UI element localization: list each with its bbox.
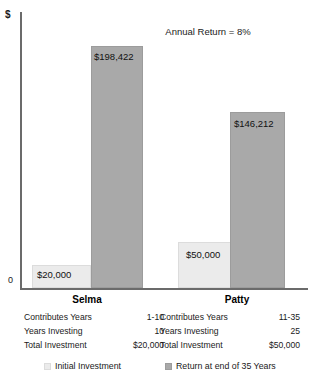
legend-item-initial-investment: Initial Investment [44, 359, 121, 373]
table-row: Contributes Years1-10 [24, 310, 164, 324]
x-axis-line [20, 288, 308, 290]
table-row: Years Investing25 [160, 324, 300, 338]
table-row-value: 25 [290, 324, 300, 338]
bar-value-label-selma-return: $198,422 [94, 52, 134, 62]
bar-selma-return [91, 46, 143, 288]
bar-value-label-selma-initial: $20,000 [37, 270, 71, 280]
table-row: Total Investment$20,000 [24, 338, 164, 352]
table-row-label: Contributes Years [24, 310, 92, 324]
table-row-value: $50,000 [269, 338, 300, 352]
table-row-label: Total Investment [160, 338, 223, 352]
data-table-patty: Contributes Years11-35Years Investing25T… [160, 310, 300, 352]
category-label-selma: Selma [57, 295, 117, 305]
category-label-patty: Patty [207, 295, 267, 305]
table-row-label: Years Investing [160, 324, 218, 338]
legend-label: Return at end of 35 Years [176, 359, 276, 373]
table-row: Years Investing10 [24, 324, 164, 338]
y-axis-zero-tick-label: 0 [8, 276, 13, 285]
table-row: Contributes Years11-35 [160, 310, 300, 324]
bar-value-label-patty-initial: $50,000 [186, 250, 220, 260]
bar-patty-return [230, 112, 285, 288]
chart-title: Annual Return = 8% [148, 26, 268, 37]
y-axis-line [20, 12, 22, 288]
data-table-selma: Contributes Years1-10Years Investing10To… [24, 310, 164, 352]
table-row-label: Total Investment [24, 338, 87, 352]
y-axis-label: $ [5, 10, 11, 20]
bar-chart: $ 0 Annual Return = 8% $20,000$198,422$5… [0, 0, 316, 292]
legend-swatch-icon [165, 363, 172, 370]
legend-label: Initial Investment [55, 359, 121, 373]
legend-item-return-at-end: Return at end of 35 Years [165, 359, 276, 373]
table-row-label: Years Investing [24, 324, 82, 338]
chart-legend: Initial InvestmentReturn at end of 35 Ye… [0, 359, 316, 375]
table-row: Total Investment$50,000 [160, 338, 300, 352]
legend-swatch-icon [44, 363, 51, 370]
table-row-label: Contributes Years [160, 310, 228, 324]
table-row-value: 11-35 [279, 310, 300, 324]
bar-value-label-patty-return: $146,212 [234, 119, 274, 129]
